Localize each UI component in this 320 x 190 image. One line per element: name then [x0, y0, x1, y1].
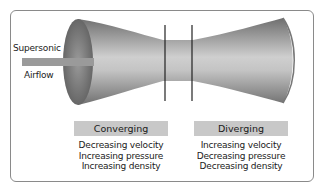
- diverging-property: Decreasing density: [184, 161, 298, 172]
- inlet-label-airflow: Airflow: [24, 70, 54, 80]
- diverging-title: Diverging: [194, 121, 288, 136]
- converging-title: Converging: [74, 121, 168, 136]
- diverging-properties: Increasing velocity Decreasing pressure …: [184, 140, 298, 172]
- converging-property: Increasing pressure: [64, 151, 178, 162]
- diverging-property: Decreasing pressure: [184, 151, 298, 162]
- converging-property: Decreasing velocity: [64, 140, 178, 151]
- converging-property: Increasing density: [64, 161, 178, 172]
- diverging-property: Increasing velocity: [184, 140, 298, 151]
- converging-properties: Decreasing velocity Increasing pressure …: [64, 140, 178, 172]
- nozzle-body: [78, 18, 293, 105]
- airflow-arrow: [22, 58, 94, 66]
- inlet-label-supersonic: Supersonic: [13, 43, 61, 53]
